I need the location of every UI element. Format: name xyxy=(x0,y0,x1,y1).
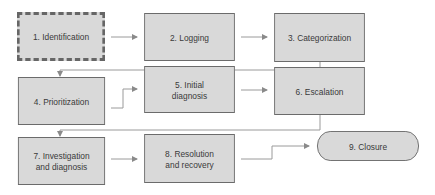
node-identification: 1. Identification xyxy=(17,12,105,61)
node-label: 4. Prioritization xyxy=(34,96,89,107)
node-closure: 9. Closure xyxy=(317,131,419,161)
node-label: 6. Escalation xyxy=(296,86,344,97)
node-initial-diagnosis: 5. Initial diagnosis xyxy=(144,66,235,113)
node-label: 1. Identification xyxy=(33,31,89,42)
node-label: 3. Categorization xyxy=(288,32,351,43)
edge-8-9 xyxy=(241,146,309,159)
node-resolution-and-recovery: 8. Resolution and recovery xyxy=(144,134,235,183)
node-label: 8. Resolution and recovery xyxy=(165,148,214,170)
node-label: 7. Investigation and diagnosis xyxy=(33,150,89,172)
node-label: 2. Logging xyxy=(170,32,209,43)
node-categorization: 3. Categorization xyxy=(274,13,365,62)
node-label: 5. Initial diagnosis xyxy=(172,79,207,101)
node-escalation: 6. Escalation xyxy=(274,67,365,115)
edge-4-5 xyxy=(111,89,137,108)
node-logging: 2. Logging xyxy=(144,13,235,61)
incident-management-flow-diagram: 1. Identification 2. Logging 3. Categori… xyxy=(0,0,435,195)
node-prioritization: 4. Prioritization xyxy=(18,77,105,125)
node-label: 9. Closure xyxy=(349,141,387,152)
node-investigation-and-diagnosis: 7. Investigation and diagnosis xyxy=(18,137,105,185)
